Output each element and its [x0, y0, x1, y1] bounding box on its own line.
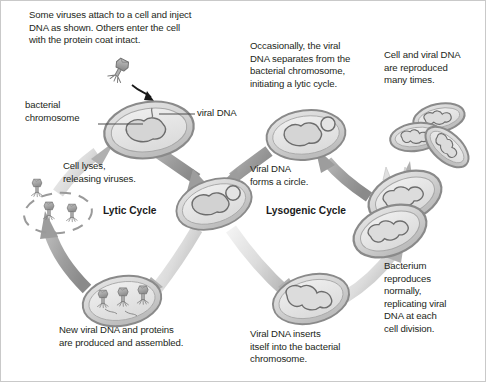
- excision-bacterium: [264, 106, 349, 165]
- free-phage-attaching: [107, 57, 154, 101]
- caption-intro: Some viruses attach to a cell and inject…: [29, 9, 244, 47]
- center-bacterium-circular-dna: [170, 169, 258, 239]
- caption-bacterium-reproduces: Bacterium reproduces normally, replicati…: [384, 260, 484, 336]
- caption-viral-dna-inserts: Viral DNA inserts itself into the bacter…: [250, 328, 375, 366]
- label-lysogenic-cycle: Lysogenic Cycle: [266, 205, 346, 216]
- arrow-assembly-to-lysis: [40, 211, 87, 289]
- infected-bacterium: [101, 96, 198, 164]
- caption-cell-and-viral-dna: Cell and viral DNA are reproduced many t…: [384, 49, 484, 87]
- label-viral-dna: viral DNA: [197, 107, 267, 120]
- lytic-lysogenic-cycle-figure: Some viruses attach to a cell and inject…: [0, 0, 486, 382]
- caption-occasionally: Occasionally, the viral DNA separates fr…: [250, 40, 375, 90]
- label-lytic-cycle: Lytic Cycle: [103, 205, 156, 216]
- lysed-bacterium: [22, 190, 94, 237]
- caption-new-viral-dna: New viral DNA and proteins are produced …: [59, 324, 244, 349]
- escaping-phage: [32, 179, 43, 196]
- reproduced-bacteria: [388, 99, 475, 175]
- prophage-bacterium: [268, 266, 355, 331]
- caption-viral-dna-circle: Viral DNA forms a circle.: [250, 163, 340, 188]
- label-bacterial-chromosome: bacterial chromosome: [25, 99, 101, 124]
- caption-cell-lyses: Cell lyses, releasing viruses.: [63, 160, 173, 185]
- dividing-bacterium-pair: [346, 161, 449, 268]
